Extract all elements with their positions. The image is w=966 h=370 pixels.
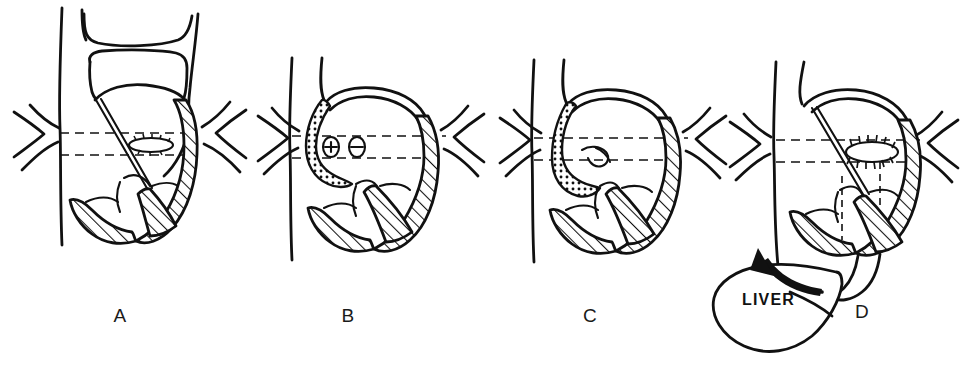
panel-label-a: A bbox=[113, 305, 126, 326]
surgical-figure: A bbox=[0, 0, 966, 370]
panel-label-c: C bbox=[583, 305, 597, 326]
panel-label-b: B bbox=[341, 305, 354, 326]
panel-label-d: D bbox=[855, 301, 869, 322]
liver-label: LIVER bbox=[742, 291, 795, 308]
figure-root: A bbox=[0, 0, 966, 370]
